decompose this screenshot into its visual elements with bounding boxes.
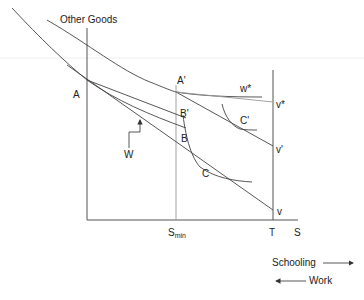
budget-diagram: Other Goods A A' B' B C C' w* v* v' v W … [0,0,364,300]
w-arrow-icon [129,120,140,148]
s-min-tick-label: Smin [168,227,186,239]
x-axis-label: S [294,227,301,238]
v-prime-label: v' [276,144,283,155]
w-star-label: w* [239,83,251,94]
v-label: v [277,206,282,217]
v-star-label: v* [276,99,285,110]
budget-line-a-b-prime [87,80,186,118]
point-c-prime-label: C' [240,115,249,126]
schooling-label: Schooling [272,257,316,268]
point-a-prime-label: A' [177,75,186,86]
indifference-curve-a [12,8,186,128]
t-tick-label: T [269,227,275,238]
w-label: W [124,149,134,160]
point-b-label: B [181,133,188,144]
point-b-prime-label: B' [180,108,189,119]
y-axis-label: Other Goods [60,14,117,25]
work-label: Work [309,275,333,286]
point-a-label: A [73,89,80,100]
point-c-label: C [202,168,209,179]
